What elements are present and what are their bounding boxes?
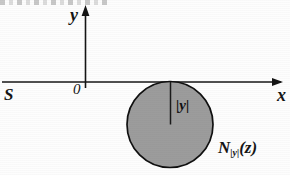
s-endpoint-label: S (4, 86, 13, 103)
x-axis-label: x (277, 86, 286, 104)
neighborhood-label: N|y|(z) (218, 139, 257, 158)
radius-length-label: |y| (176, 98, 189, 113)
y-axis-label: y (70, 6, 78, 24)
origin-label: 0 (73, 82, 81, 97)
neighborhood-label-base: N (218, 138, 230, 157)
neighborhood-label-argument: (z) (239, 138, 257, 157)
neighborhood-label-subscript: |y| (230, 147, 239, 158)
y-axis-arrowhead (82, 5, 90, 16)
math-figure: y x S 0 |y| N|y|(z) (0, 0, 290, 175)
